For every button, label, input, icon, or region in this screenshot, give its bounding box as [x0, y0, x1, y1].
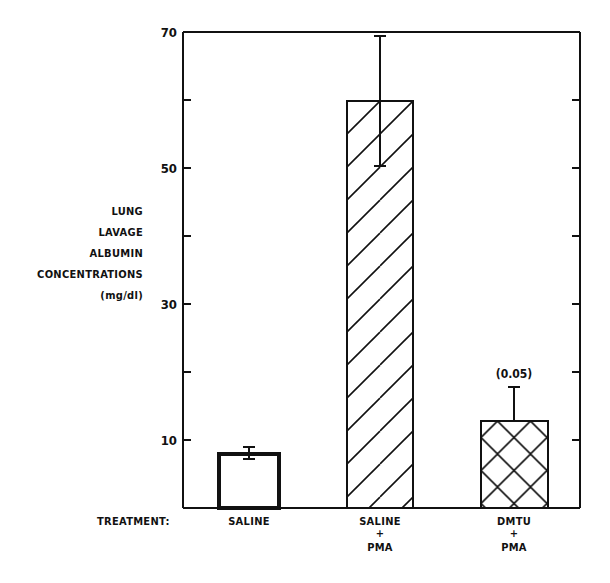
- y-tick-70: 70: [161, 25, 177, 40]
- y-ticks-right: [572, 100, 580, 440]
- significance-annotation: (0.05): [496, 367, 533, 381]
- category-label-saline-pma-line3: PMA: [367, 541, 393, 554]
- y-tick-labels: 70 50 30 10: [161, 25, 177, 448]
- bar-chart: 70 50 30 10 LUNG LAVAGE ALBUMIN CONCENTR…: [0, 0, 610, 583]
- y-label-line-1: LUNG: [111, 205, 143, 218]
- y-label-line-2: LAVAGE: [99, 226, 143, 239]
- category-label-saline-pma-line2: +: [376, 527, 385, 540]
- y-ticks-left: [183, 100, 191, 440]
- category-label-dmtu-pma-line2: +: [510, 527, 519, 540]
- y-tick-10: 10: [161, 433, 177, 448]
- y-label-line-5: (mg/dl): [100, 289, 143, 302]
- bar-dmtu-pma: (0.05): [481, 367, 548, 508]
- bar-saline-pma: [347, 36, 413, 508]
- x-axis-labels: TREATMENT: SALINE SALINE + PMA DMTU + PM…: [97, 515, 531, 554]
- category-label-dmtu-pma-line3: PMA: [501, 541, 527, 554]
- y-label-line-3: ALBUMIN: [90, 247, 143, 260]
- y-tick-30: 30: [161, 297, 177, 312]
- y-label-line-4: CONCENTRATIONS: [37, 268, 143, 281]
- y-axis-label: LUNG LAVAGE ALBUMIN CONCENTRATIONS (mg/d…: [37, 205, 143, 302]
- category-label-saline: SALINE: [228, 515, 270, 528]
- bar-saline: [219, 447, 279, 508]
- x-axis-title: TREATMENT:: [97, 515, 170, 528]
- y-tick-50: 50: [161, 161, 177, 176]
